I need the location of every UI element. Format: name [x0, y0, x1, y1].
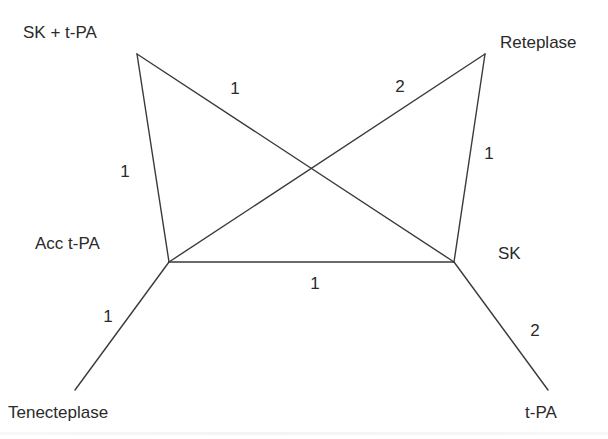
node-label-acc-tpa: Acc t-PA [35, 234, 101, 253]
node-labels-group: SK + t-PAReteplaseAcc t-PASKTenecteplase… [8, 23, 577, 422]
edge-labels-group: 1121112 [103, 77, 539, 340]
edge-weight-label: 1 [120, 162, 129, 181]
network-diagram: 1121112 SK + t-PAReteplaseAcc t-PASKTene… [0, 0, 608, 439]
edge-weight-label: 2 [395, 77, 404, 96]
edge-weight-label: 2 [530, 321, 539, 340]
edge-weight-label: 1 [484, 144, 493, 163]
edge-sk_tpa-acc_tpa [137, 54, 169, 262]
edge-acc_tpa-tenecteplase [75, 262, 169, 390]
edge-reteplase-sk [454, 54, 485, 262]
cropped-caption-remnant [0, 432, 608, 435]
edge-weight-label: 1 [230, 79, 239, 98]
node-label-sk-tpa: SK + t-PA [23, 23, 98, 42]
edge-weight-label: 1 [310, 274, 319, 293]
node-label-reteplase: Reteplase [500, 33, 577, 52]
edge-weight-label: 1 [103, 307, 112, 326]
node-label-tenecteplase: Tenecteplase [8, 403, 108, 422]
edge-sk_tpa-sk [137, 54, 454, 262]
node-label-sk: SK [498, 244, 521, 263]
edge-reteplase-acc_tpa [169, 54, 485, 262]
node-label-tpa: t-PA [525, 403, 557, 422]
edges-group [75, 54, 548, 390]
